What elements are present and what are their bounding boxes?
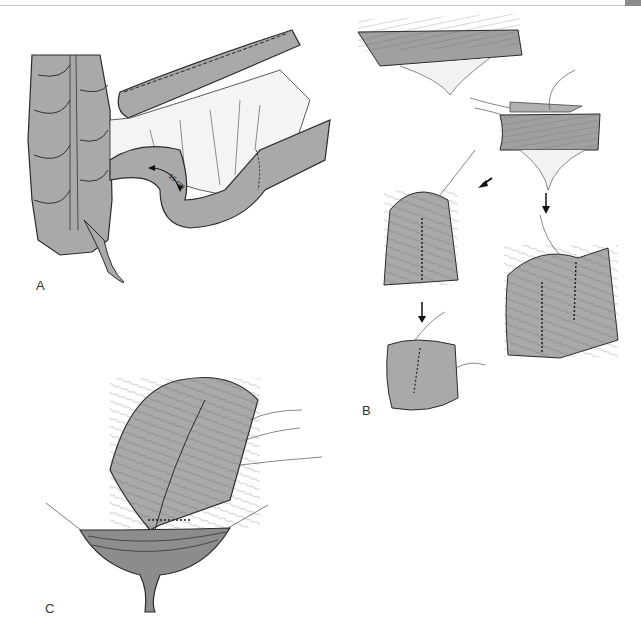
- panel-label-c: C: [45, 601, 54, 616]
- panel-label-a: A: [36, 278, 45, 293]
- surgical-illustration: 15 cm: [0, 0, 641, 631]
- panel-a-drawing: 15 cm: [28, 30, 330, 283]
- panel-label-b: B: [362, 403, 371, 418]
- panel-b-drawing: [358, 14, 618, 410]
- panel-c-drawing: [46, 378, 322, 613]
